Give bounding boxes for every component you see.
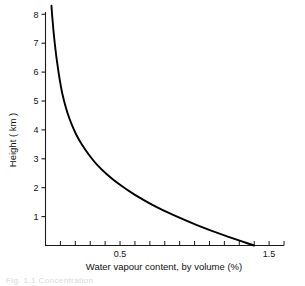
figure-caption: Fig. 1.1 Concentration <box>6 276 206 285</box>
y-axis-tick-labels: 87654321 <box>33 10 38 222</box>
y-tick-label-1: 1 <box>33 212 38 222</box>
y-tick-label-4: 4 <box>33 125 38 135</box>
y-axis-ticks <box>42 14 46 216</box>
y-tick-label-5: 5 <box>33 96 38 106</box>
y-tick-label-7: 7 <box>33 38 38 48</box>
y-tick-label-8: 8 <box>33 10 38 20</box>
y-tick-label-6: 6 <box>33 67 38 77</box>
x-tick-label-0.5: 0.5 <box>114 249 127 259</box>
data-series-line <box>51 6 254 246</box>
x-axis-title: Water vapour content, by volume (%) <box>86 261 242 272</box>
y-axis-title: Height ( km ) <box>7 113 18 167</box>
y-tick-label-3: 3 <box>33 154 38 164</box>
x-tick-label-1.5: 1.5 <box>263 249 276 259</box>
figure-container: 87654321 0.51.5 Water vapour content, by… <box>0 0 305 286</box>
y-tick-label-2: 2 <box>33 183 38 193</box>
chart-canvas: 87654321 0.51.5 Water vapour content, by… <box>0 0 305 286</box>
x-axis-tick-labels: 0.51.5 <box>114 249 276 259</box>
